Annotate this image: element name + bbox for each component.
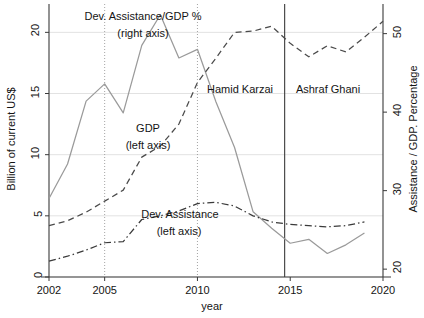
y-tick-label-right-text: 20 [391,261,403,273]
y-tick-label-left: 20 [21,24,41,36]
y-axis-right-title: Assistance / GDP. Percentage [402,0,424,278]
y-tick-label-right: 20 [391,261,403,273]
y-tick-label-left: 5 [21,208,41,220]
tick-marks-group [45,32,387,281]
x-tick-label: 2020 [363,284,403,296]
y-tick-label-right-text: 40 [391,104,403,116]
y-tick-label-right: 50 [391,26,403,38]
annotation-period-hamid-karzai: Hamid Karzai [202,83,278,95]
y-tick-label-right-text: 30 [391,183,403,195]
x-tick-label: 2015 [270,284,310,296]
y-tick-label-left: 10 [21,147,41,159]
annotation-dev-assistance-axis: (left axis) [139,225,219,237]
y-tick-label-left-text: 20 [29,24,41,36]
chart-plot-area [0,0,424,318]
annotation-period-ashraf-ghani: Ashraf Ghani [290,83,366,95]
y-axis-right-title-text: Assistance / GDP. Percentage [407,65,419,212]
gridlines-group [49,32,383,277]
x-axis-title-text: year [201,300,222,312]
y-tick-label-left: 0 [21,269,41,281]
y-tick-label-right-text: 50 [391,26,403,38]
y-tick-label-right: 40 [391,104,403,116]
x-tick-label: 2005 [85,284,125,296]
annotation-gdp-label: GDP [118,122,178,134]
chart-figure: Billion of current US$ Assistance / GDP.… [0,0,424,318]
x-axis-title: year [0,300,424,312]
y-tick-label-left-text: 0 [32,272,44,278]
y-tick-label-left-text: 15 [29,85,41,97]
annotation-dev-assistance-gdp-label: Dev. Assistance/GDP % [58,10,228,22]
y-axis-left-title-text: Billion of current US$ [5,87,17,190]
series-line-1 [49,21,383,225]
y-tick-label-left-text: 5 [32,211,44,217]
y-tick-label-right: 30 [391,183,403,195]
annotation-gdp-axis: (left axis) [113,139,183,151]
y-tick-label-left-text: 10 [29,147,41,159]
x-tick-label: 2002 [29,284,69,296]
y-axis-left-title: Billion of current US$ [0,0,22,278]
x-tick-label: 2010 [177,284,217,296]
annotation-dev-assistance-gdp-axis: (right axis) [58,27,228,39]
y-tick-label-left: 15 [21,86,41,98]
annotation-dev-assistance-label: Dev. Assistance [128,208,232,220]
